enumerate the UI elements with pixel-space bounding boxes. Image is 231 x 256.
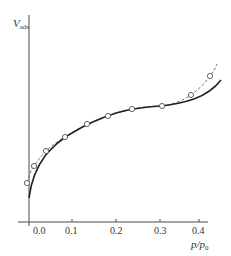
x-tick-label: 0.2 [110,225,123,236]
data-point [84,121,89,126]
data-point [43,148,48,153]
data-point [31,163,36,168]
data-point [62,134,67,139]
x-tick-label: 0.0 [33,225,46,236]
data-point-markers [24,73,212,185]
x-tick-labels: 0.0 0.1 0.2 0.3 0.4 [33,225,205,236]
data-point [159,103,164,108]
data-point [105,113,110,118]
x-tick-label: 0.3 [154,225,167,236]
x-axis-title: p/p0 [190,238,209,252]
data-point [24,180,29,185]
experimental-dashed-curve [27,64,217,183]
x-tick-label: 0.4 [192,225,205,236]
adsorption-isotherm-chart: Vads 0.0 0.1 0.2 0.3 0.4 p/p0 [0,0,231,256]
data-point [129,106,134,111]
y-axis-title: Vads [13,17,29,31]
data-point [188,92,193,97]
data-point [207,73,212,78]
x-tick-label: 0.1 [65,225,78,236]
